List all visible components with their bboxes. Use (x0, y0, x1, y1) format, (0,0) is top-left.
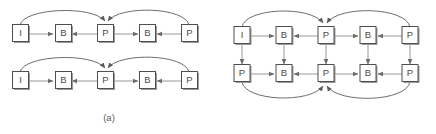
node-a1n1-label: I (19, 27, 22, 38)
node-a1n4[interactable]: B (140, 25, 158, 44)
node-a2n2-label: B (60, 74, 66, 85)
arc-b-top-i-to-p (242, 11, 323, 27)
node-a1n5-label: P (186, 27, 192, 38)
arc-a1-i-to-p (20, 10, 105, 25)
node-b1n1-label: I (241, 29, 244, 40)
panel-a: I B P B P (0, 0, 218, 134)
node-b2n1-label: P (239, 67, 245, 78)
node-a1n4-label: B (144, 27, 150, 38)
node-b1n3[interactable]: P (318, 27, 336, 46)
node-b1n2-label: B (281, 29, 287, 40)
node-b1n2[interactable]: B (276, 27, 294, 46)
node-a2n3[interactable]: P (98, 72, 116, 91)
arrow-group-b-vertical (242, 45, 410, 64)
caption-a: (a) (79, 112, 139, 123)
node-b1n4[interactable]: B (360, 27, 378, 46)
arc-b-bottom-p-to-p (242, 82, 323, 98)
node-b1n4-label: B (365, 29, 371, 40)
node-b1n5[interactable]: P (402, 27, 420, 46)
node-a2n3-label: P (102, 74, 108, 85)
arc-group-a-row2 (20, 57, 189, 72)
node-b2n4[interactable]: B (360, 65, 378, 84)
node-b1n1[interactable]: I (234, 27, 252, 46)
node-a2n2[interactable]: B (56, 72, 74, 91)
arc-group-b-bottom (242, 82, 410, 98)
arc-a1-p-to-p (108, 10, 189, 25)
node-a2n5-label: P (186, 74, 192, 85)
node-b2n3[interactable]: P (318, 65, 336, 84)
arc-b-top-p-to-p (327, 11, 410, 27)
node-a2n1-label: I (19, 74, 22, 85)
node-a2n1[interactable]: I (13, 72, 31, 91)
node-b2n1[interactable]: P (234, 65, 252, 84)
node-a1n3-label: P (102, 27, 108, 38)
arc-group-b-top (242, 11, 410, 27)
node-b2n2[interactable]: B (276, 65, 294, 84)
arc-a2-p-to-p (108, 57, 189, 72)
node-b2n2-label: B (281, 67, 287, 78)
node-a2n5[interactable]: P (182, 72, 200, 91)
node-a1n2[interactable]: B (56, 25, 74, 44)
node-a1n3[interactable]: P (98, 25, 116, 44)
node-b1n5-label: P (407, 29, 413, 40)
panel-a-graphic: I B P B P (0, 0, 218, 110)
arc-group-a-row1 (20, 10, 189, 25)
arc-a2-i-to-p (20, 57, 105, 72)
panel-b: I B P B P (218, 0, 436, 134)
node-a1n5[interactable]: P (182, 25, 200, 44)
node-a1n1[interactable]: I (13, 25, 31, 44)
node-b1n3-label: P (323, 29, 329, 40)
arc-b-bottom-p2-to-p (327, 82, 410, 98)
panel-b-graphic: I B P B P (218, 0, 436, 110)
node-b2n4-label: B (365, 67, 371, 78)
node-b2n3-label: P (323, 67, 329, 78)
node-a2n4-label: B (144, 74, 150, 85)
node-b2n5[interactable]: P (402, 65, 420, 84)
node-b2n5-label: P (407, 67, 413, 78)
node-a1n2-label: B (60, 27, 66, 38)
figure-canvas: I B P B P (0, 0, 436, 134)
node-a2n4[interactable]: B (140, 72, 158, 91)
